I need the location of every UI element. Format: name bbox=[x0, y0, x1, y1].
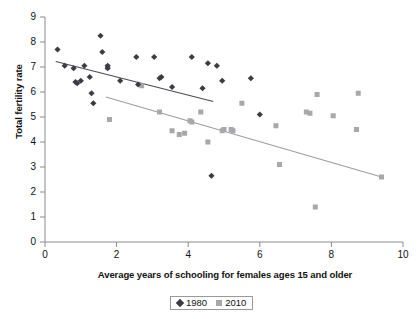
y-tick-label: 1 bbox=[20, 212, 36, 222]
x-tick-label: 2 bbox=[107, 250, 127, 260]
legend-item-1980[interactable]: 1980 bbox=[177, 298, 207, 308]
x-tick-label: 6 bbox=[250, 250, 270, 260]
y-tick-label: 2 bbox=[20, 187, 36, 197]
chart-legend: 1980 2010 bbox=[170, 296, 253, 310]
scatter-chart: 0123456789 0246810 Total fertility rate … bbox=[0, 0, 418, 319]
legend-item-2010[interactable]: 2010 bbox=[216, 298, 246, 308]
x-axis-title: Average years of schooling for females a… bbox=[45, 269, 405, 280]
x-tick-label: 0 bbox=[35, 250, 55, 260]
x-tick-label: 10 bbox=[393, 250, 413, 260]
x-axis-ticks bbox=[45, 242, 403, 247]
square-marker-icon bbox=[216, 300, 222, 306]
x-tick-label: 4 bbox=[178, 250, 198, 260]
series-1980-markers bbox=[54, 33, 262, 179]
legend-label-1980: 1980 bbox=[186, 298, 207, 308]
legend-label-2010: 2010 bbox=[225, 298, 246, 308]
y-axis-title: Total fertility rate bbox=[13, 32, 24, 172]
x-tick-label: 8 bbox=[321, 250, 341, 260]
y-axis-ticks bbox=[40, 17, 45, 242]
diamond-marker-icon bbox=[176, 298, 184, 306]
trendlines bbox=[56, 62, 384, 178]
y-tick-label: 0 bbox=[20, 237, 36, 247]
y-tick-label: 9 bbox=[20, 12, 36, 22]
